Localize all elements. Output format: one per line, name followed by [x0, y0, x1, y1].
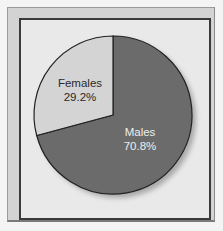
pie-chart: Females 29.2% Males 70.8% — [0, 0, 223, 231]
label-males-value: 70.8% — [124, 140, 157, 152]
label-females-name: Females — [58, 77, 102, 89]
label-females-value: 29.2% — [64, 91, 97, 103]
label-males-name: Males — [125, 126, 156, 138]
